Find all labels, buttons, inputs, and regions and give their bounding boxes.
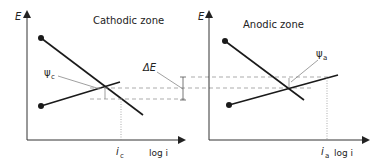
left-psi-label: ψ [44,67,51,78]
left-cathodic-polarization-line [41,38,143,115]
diagram-canvas: E Cathodic zone log i i c ψ c ΔE E Anodi… [0,0,384,162]
right-axes [209,12,368,140]
left-current-label: i [116,146,119,157]
left-psi-sub: c [51,73,55,81]
left-anodic-polarization-line [41,82,120,106]
left-current-sub: c [120,152,124,160]
right-current-sub: a [325,152,329,160]
left-upper-endpoint [38,35,44,41]
delta-e-leader [157,72,183,89]
right-lower-endpoint [226,102,232,108]
right-anodic-polarization-line [229,75,338,105]
left-x-axis-label: log i [149,148,168,158]
left-lower-endpoint [38,103,44,109]
right-current-label: i [321,146,324,157]
right-y-axis-label: E [198,11,205,22]
right-panel-title: Anodic zone [243,19,304,30]
left-y-axis-label: E [15,11,22,22]
right-x-axis-label: log i [334,148,353,158]
right-psi-sub: a [323,54,327,62]
delta-e-label: ΔE [142,62,157,73]
evans-diagram: E Cathodic zone log i i c ψ c ΔE E Anodi… [0,0,384,162]
right-psi-leader [291,60,318,82]
right-upper-endpoint [222,38,228,44]
right-cathodic-polarization-line [225,41,304,100]
right-psi-label: ψ [316,48,323,59]
left-panel-title: Cathodic zone [93,15,164,26]
